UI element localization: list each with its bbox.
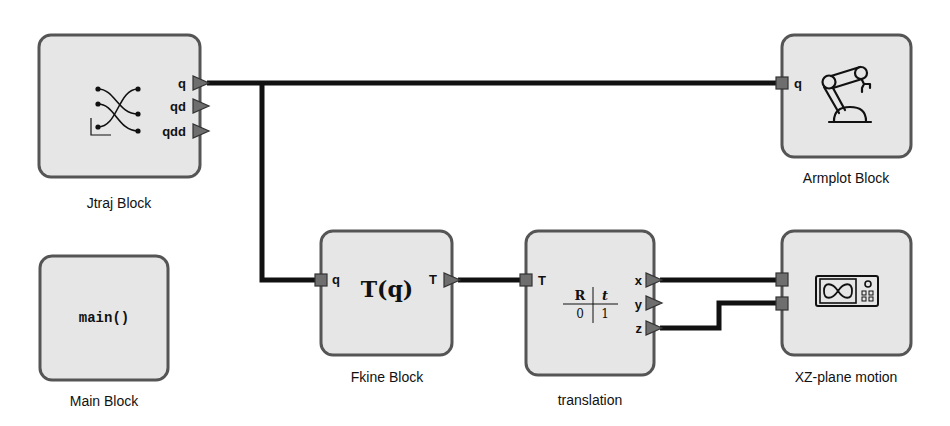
translation-port-label-x: x <box>635 273 643 288</box>
matrix-R: R <box>575 288 586 303</box>
jtraj-port-label-qd: qd <box>170 99 186 114</box>
armplot-block[interactable]: q Armplot Block <box>776 35 911 186</box>
xzplot-input-port-1[interactable] <box>776 273 788 286</box>
translation-block-label: translation <box>558 392 623 408</box>
main-block-content: main() <box>79 310 129 326</box>
armplot-block-body[interactable] <box>782 35 911 157</box>
fkine-block[interactable]: q T(q) T Fkine Block <box>315 231 460 385</box>
xzplot-block-body[interactable] <box>782 231 911 355</box>
jtraj-block-label: Jtraj Block <box>87 195 153 211</box>
matrix-zero: 0 <box>576 307 584 321</box>
xzplot-block-label: XZ-plane motion <box>795 369 898 385</box>
wire-translation-z-to-xz-in2[interactable] <box>660 303 777 328</box>
main-block-label: Main Block <box>70 393 139 409</box>
xzplot-input-port-2[interactable] <box>776 297 788 310</box>
armplot-port-label-q: q <box>794 76 802 91</box>
xzplot-block[interactable]: XZ-plane motion <box>776 231 911 385</box>
fkine-input-port-q[interactable] <box>315 274 327 286</box>
matrix-one: 1 <box>601 307 609 321</box>
translation-input-port-T[interactable] <box>520 274 532 286</box>
jtraj-port-label-q: q <box>178 76 186 91</box>
armplot-input-port-q[interactable] <box>776 77 788 89</box>
main-block[interactable]: main() Main Block <box>40 256 168 409</box>
armplot-block-label: Armplot Block <box>803 170 890 186</box>
wires <box>207 83 783 328</box>
fkine-port-label-q: q <box>332 272 340 287</box>
fkine-block-content: T(q) <box>361 276 414 302</box>
fkine-block-label: Fkine Block <box>351 369 424 385</box>
jtraj-block[interactable]: q qd qdd Jtraj Block <box>39 35 209 211</box>
block-diagram-canvas: q qd qdd Jtraj Block q Armplot Block mai… <box>0 0 950 426</box>
wire-jtraj-q-to-fkine-q[interactable] <box>262 83 315 280</box>
translation-port-label-z: z <box>636 321 643 336</box>
translation-port-label-T: T <box>538 273 546 288</box>
jtraj-port-label-qdd: qdd <box>162 124 186 139</box>
translation-block[interactable]: T R t 0 1 x y z translation <box>520 231 662 408</box>
fkine-port-label-T: T <box>429 272 437 287</box>
matrix-t: t <box>602 288 608 303</box>
translation-port-label-y: y <box>635 297 643 312</box>
